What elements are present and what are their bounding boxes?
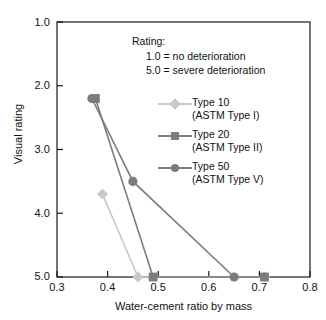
chart-legend: Type 10 (ASTM Type I) Type 20 (ASTM Type… — [158, 96, 264, 192]
y-tick-label-3: 3.0 — [20, 143, 50, 155]
circle-marker-icon — [171, 164, 179, 172]
diamond-marker-icon — [169, 98, 180, 109]
legend-label-sub: (ASTM Type V) — [192, 173, 264, 186]
legend-item-type-50: Type 50 (ASTM Type V) — [158, 160, 264, 186]
x-tick-label-5: 0.7 — [244, 281, 274, 293]
series-type-10 — [97, 189, 270, 283]
legend-label-main: Type 10 — [192, 96, 229, 108]
x-axis-label: Water-cement ratio by mass — [57, 300, 310, 312]
annotation-line-3: 5.0 = severe deterioration — [132, 63, 265, 78]
legend-swatch-type-50 — [158, 161, 192, 174]
x-tick-marks — [57, 271, 310, 277]
data-point-type-50 — [128, 177, 137, 186]
data-point-type-10 — [97, 189, 108, 200]
legend-swatch-type-20 — [158, 129, 192, 142]
rating-annotation: Rating: 1.0 = no deterioration 5.0 = sev… — [132, 34, 265, 78]
y-axis-label: Visual rating — [12, 84, 24, 184]
square-marker-icon — [171, 132, 179, 140]
annotation-line-1: Rating: — [132, 34, 265, 49]
y-tick-label-4: 4.0 — [20, 207, 50, 219]
legend-swatch-type-10 — [158, 97, 192, 110]
x-tick-label-6: 0.8 — [295, 281, 325, 293]
y-tick-marks — [57, 22, 63, 277]
legend-label-main: Type 20 — [192, 128, 229, 140]
legend-label-sub: (ASTM Type I) — [192, 109, 260, 122]
legend-label-sub: (ASTM Type II) — [192, 141, 262, 154]
y-tick-label-2: 2.0 — [20, 79, 50, 91]
legend-label-type-10: Type 10 (ASTM Type I) — [192, 96, 260, 122]
data-point-type-20 — [91, 94, 100, 103]
x-tick-label-3: 0.5 — [143, 281, 173, 293]
data-point-type-10 — [132, 271, 143, 282]
legend-label-type-20: Type 20 (ASTM Type II) — [192, 128, 262, 154]
legend-label-main: Type 50 — [192, 160, 229, 172]
x-tick-label-4: 0.6 — [194, 281, 224, 293]
legend-item-type-10: Type 10 (ASTM Type I) — [158, 96, 264, 122]
x-tick-label-1: 0.3 — [42, 281, 72, 293]
chart-figure: 1.0 2.0 3.0 4.0 5.0 0.3 0.4 0.5 0.6 0.7 … — [0, 0, 326, 320]
annotation-line-2: 1.0 = no deterioration — [132, 49, 265, 64]
x-tick-label-2: 0.4 — [93, 281, 123, 293]
y-tick-label-1: 1.0 — [20, 16, 50, 28]
legend-item-type-20: Type 20 (ASTM Type II) — [158, 128, 264, 154]
legend-label-type-50: Type 50 (ASTM Type V) — [192, 160, 264, 186]
series-line-type-10 — [103, 194, 265, 277]
